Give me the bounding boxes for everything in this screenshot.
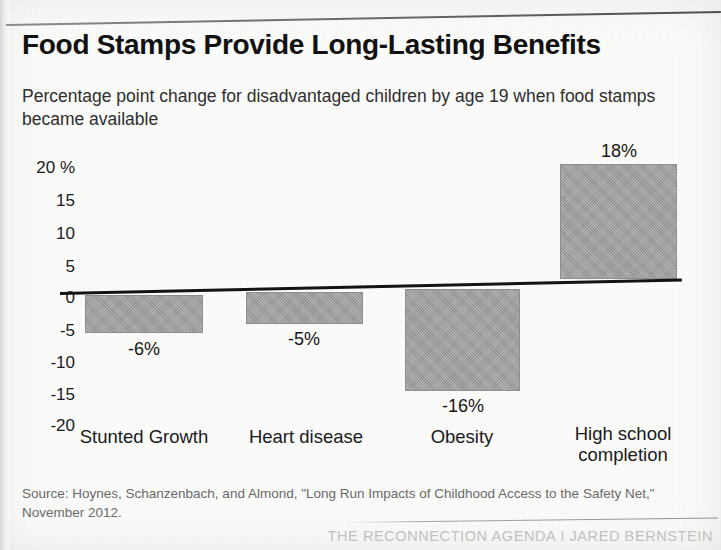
y-tick-neg15: -15 xyxy=(13,386,75,403)
data-label-high-school-completion: 18% xyxy=(570,142,668,160)
bar-stunted-growth xyxy=(85,295,203,333)
y-tick-neg5: -5 xyxy=(13,322,75,339)
zero-axis-line xyxy=(60,278,682,295)
bar-high-school-completion xyxy=(560,164,677,279)
y-tick-20: 20 % xyxy=(13,159,75,176)
y-tick-neg10: -10 xyxy=(13,354,75,371)
data-label-obesity: -16% xyxy=(414,397,512,415)
category-label-high-school-completion: High school completion xyxy=(548,424,698,465)
data-label-stunted-growth: -6% xyxy=(96,340,192,358)
y-tick-15: 15 xyxy=(13,192,75,209)
y-tick-5: 5 xyxy=(13,258,75,275)
chart-plot-area: 20 % 15 10 5 0 -5 -10 -15 -20 -6% -5% -1… xyxy=(0,0,721,550)
data-label-heart-disease: -5% xyxy=(256,330,352,348)
publication-credit: THE RECONNECTION AGENDA I JARED BERNSTEI… xyxy=(327,528,713,544)
y-tick-10: 10 xyxy=(13,225,75,242)
category-label-heart-disease: Heart disease xyxy=(222,427,390,448)
bar-obesity xyxy=(405,289,520,391)
category-label-obesity: Obesity xyxy=(392,427,532,448)
source-note: Source: Hoynes, Schanzenbach, and Almond… xyxy=(22,484,682,522)
category-label-stunted-growth: Stunted Growth xyxy=(58,427,230,448)
bar-heart-disease xyxy=(246,292,363,324)
chart-page: Food Stamps Provide Long-Lasting Benefit… xyxy=(0,0,721,550)
